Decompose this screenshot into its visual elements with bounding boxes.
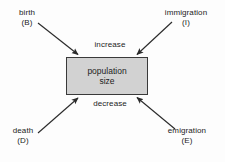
label-increase: increase (82, 40, 138, 50)
label-emigration-line1: emigration (168, 126, 206, 135)
label-birth-line2: (B) (13, 18, 41, 28)
label-birth-line1: birth (19, 8, 35, 17)
label-death: death (D) (8, 126, 38, 146)
population-size-box: population size (66, 57, 148, 95)
label-birth: birth (B) (13, 8, 41, 28)
label-decrease: decrease (82, 99, 138, 109)
label-emigration: emigration (E) (157, 126, 217, 146)
population-box-line1: population (87, 66, 126, 77)
label-immigration-line2: (I) (155, 18, 217, 28)
label-death-line2: (D) (8, 136, 38, 146)
population-box-line2: size (99, 76, 114, 87)
death-arrow (38, 98, 78, 133)
emigration-arrow (137, 98, 175, 130)
label-immigration-line1: immigration (165, 8, 207, 17)
label-death-line1: death (13, 126, 34, 135)
label-immigration: immigration (I) (155, 8, 217, 28)
diagram-canvas: birth (B) immigration (I) death (D) emig… (0, 0, 225, 162)
birth-arrow (38, 23, 78, 55)
label-emigration-line2: (E) (157, 136, 217, 146)
